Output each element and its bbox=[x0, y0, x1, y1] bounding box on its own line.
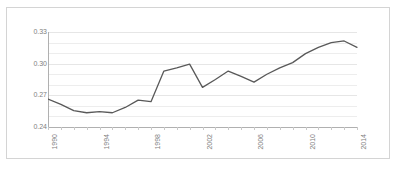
x-axis-tick bbox=[280, 127, 281, 130]
x-axis-tick bbox=[100, 127, 101, 130]
x-axis-tick bbox=[87, 127, 88, 130]
x-axis-tick bbox=[61, 127, 62, 130]
x-axis-tick-label: 2006 bbox=[257, 134, 265, 150]
x-axis-tick bbox=[125, 127, 126, 130]
x-axis-tick bbox=[331, 127, 332, 130]
x-axis-tick bbox=[318, 127, 319, 130]
x-axis-tick-label: 1998 bbox=[154, 134, 162, 150]
x-axis-tick bbox=[357, 127, 358, 130]
x-axis-tick-label: 2010 bbox=[309, 134, 317, 150]
y-axis-tick-label: 0.33 bbox=[21, 28, 47, 36]
chart-container: 0.330.300.270.24 19901994199820022006201… bbox=[6, 7, 390, 159]
x-axis-tick bbox=[306, 127, 307, 130]
y-axis-tick-label: 0.27 bbox=[21, 91, 47, 99]
x-axis-tick bbox=[190, 127, 191, 130]
x-axis-tick bbox=[344, 127, 345, 130]
x-axis-tick bbox=[215, 127, 216, 130]
x-axis-tick bbox=[164, 127, 165, 130]
x-axis-tick bbox=[74, 127, 75, 130]
x-axis-tick bbox=[112, 127, 113, 130]
x-axis-tick bbox=[267, 127, 268, 130]
x-axis-tick-label: 1990 bbox=[51, 134, 59, 150]
x-axis-tick-label: 2002 bbox=[206, 134, 214, 150]
x-axis-tick bbox=[151, 127, 152, 130]
x-axis-tick bbox=[48, 127, 49, 130]
x-axis-tick bbox=[254, 127, 255, 130]
x-axis-tick bbox=[177, 127, 178, 130]
x-axis-tick bbox=[203, 127, 204, 130]
x-axis-tick-label: 1994 bbox=[103, 134, 111, 150]
y-axis-tick-label: 0.30 bbox=[21, 60, 47, 68]
x-axis-tick bbox=[228, 127, 229, 130]
x-axis-tick bbox=[241, 127, 242, 130]
y-axis-tick-label: 0.24 bbox=[21, 123, 47, 131]
x-axis-tick bbox=[293, 127, 294, 130]
x-axis-tick-label: 2014 bbox=[360, 134, 368, 150]
data-series-line bbox=[48, 32, 358, 128]
x-axis-tick bbox=[138, 127, 139, 130]
